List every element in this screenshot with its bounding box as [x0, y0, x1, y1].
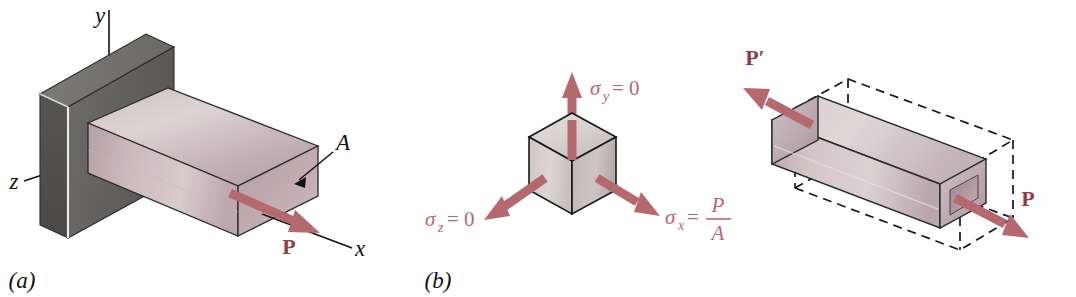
stress-label-sigma-z-symbol: σ	[425, 207, 437, 231]
stress-label-sigma-z-relation: = 0	[447, 207, 475, 231]
stress-label-sigma-y-subscript: y	[601, 89, 610, 104]
wall-side-face	[40, 94, 68, 238]
stress-label-sigma-x-numerator: P	[711, 193, 725, 217]
stress-label-sigma-z: σ z = 0	[425, 207, 475, 235]
axis-label-x: x	[354, 236, 366, 261]
force-label-P-prime: P′	[745, 45, 765, 70]
force-label-P-a: P	[282, 234, 295, 259]
stress-label-sigma-y: σ y = 0	[590, 76, 640, 104]
stress-label-sigma-x-subscript: x	[677, 218, 685, 233]
stress-label-sigma-y-symbol: σ	[590, 76, 602, 100]
stress-label-sigma-x-symbol: σ	[665, 205, 677, 229]
axis-label-z: z	[9, 169, 19, 194]
stress-label-sigma-x-relation: =	[687, 205, 699, 229]
stress-label-sigma-z-subscript: z	[437, 220, 444, 235]
axis-label-y: y	[93, 3, 106, 28]
caption-panel-b: (b)	[425, 268, 452, 293]
force-label-P-c: P	[1021, 186, 1034, 211]
area-label-A: A	[334, 130, 351, 155]
caption-panel-a: (a)	[9, 268, 36, 293]
stress-label-sigma-x-denominator: A	[710, 221, 725, 245]
figure-root: y z x A P (a)	[0, 0, 1076, 297]
stress-label-sigma-y-relation: = 0	[612, 76, 640, 100]
engineering-figure-canvas: y z x A P (a)	[0, 0, 1076, 297]
